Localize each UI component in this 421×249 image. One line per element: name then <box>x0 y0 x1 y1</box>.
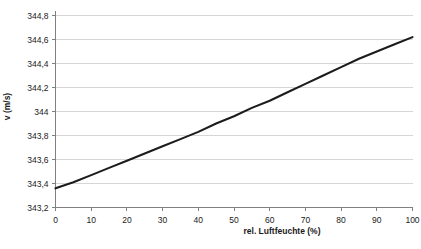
x-tick-label: 0 <box>53 215 58 225</box>
x-tick-label: 90 <box>372 215 382 225</box>
y-tick-label: 343,6 <box>27 155 49 165</box>
chart-canvas: 343,2343,4343,6343,8344344,2344,4344,634… <box>0 0 421 249</box>
y-tick-label: 344,8 <box>27 11 49 21</box>
line-chart: 343,2343,4343,6343,8344344,2344,4344,634… <box>0 0 421 249</box>
y-tick-label: 343,4 <box>27 179 49 189</box>
x-tick-label: 80 <box>336 215 346 225</box>
y-tick-label: 344,4 <box>27 59 49 69</box>
x-axis-title: rel. Luftfeuchte (%) <box>244 226 321 236</box>
y-tick-label: 344,6 <box>27 35 49 45</box>
x-tick-label: 30 <box>158 215 168 225</box>
x-tick-label: 20 <box>122 215 132 225</box>
x-tick-label: 60 <box>265 215 275 225</box>
y-tick-label: 343,8 <box>27 131 49 141</box>
x-tick-label: 70 <box>301 215 311 225</box>
y-tick-label: 343,2 <box>27 203 49 213</box>
x-tick-label: 40 <box>194 215 204 225</box>
x-tick-label: 100 <box>405 215 419 225</box>
y-axis-title: v (m/s) <box>2 93 12 121</box>
x-tick-label: 50 <box>229 215 239 225</box>
y-tick-label: 344,2 <box>27 83 49 93</box>
x-tick-label: 10 <box>86 215 96 225</box>
y-tick-label: 344 <box>34 107 48 117</box>
chart-background <box>0 0 421 249</box>
